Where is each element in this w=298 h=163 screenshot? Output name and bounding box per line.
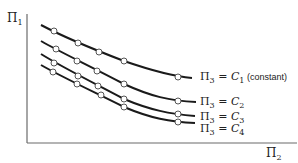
- data-point-marker: [74, 81, 80, 87]
- curve-c3: [41, 54, 195, 116]
- curve-c1: [41, 25, 192, 78]
- data-point-marker: [121, 58, 127, 64]
- data-point-marker: [175, 74, 181, 80]
- curve-c4: [41, 65, 195, 123]
- dimensionless-groups-diagram: Π1 Π2 Π3 = C1 (constant)Π3 = C2Π3 = C3Π3…: [0, 0, 298, 163]
- curve-label-group: Π3 = C1 (constant)Π3 = C2Π3 = C3Π3 = C4: [200, 70, 287, 137]
- curve-label-c1: Π3 = C1 (constant): [200, 70, 287, 85]
- data-point-marker: [175, 119, 181, 125]
- data-point-marker: [51, 28, 57, 34]
- data-point-marker: [175, 111, 181, 117]
- data-point-marker: [175, 98, 181, 104]
- data-point-marker: [53, 46, 59, 52]
- data-point-marker: [98, 92, 104, 98]
- data-point-marker: [121, 96, 127, 102]
- data-point-marker: [74, 58, 80, 64]
- data-point-marker: [96, 49, 102, 55]
- data-point-marker: [75, 40, 81, 46]
- y-axis-label: Π1: [7, 11, 23, 27]
- data-point-marker: [94, 68, 100, 74]
- curve-label-c4: Π3 = C4: [200, 122, 244, 137]
- plot-area: Π1 Π2 Π3 = C1 (constant)Π3 = C2Π3 = C3Π3…: [0, 0, 298, 163]
- data-point-marker: [51, 60, 57, 66]
- curve-label-c2: Π3 = C2: [200, 95, 244, 110]
- data-point-marker: [121, 104, 127, 110]
- data-point-marker: [75, 73, 81, 79]
- data-point-marker: [121, 81, 127, 87]
- data-point-marker: [95, 83, 101, 89]
- curve-group: [41, 25, 196, 125]
- curve-c2: [41, 41, 196, 102]
- x-axis-label: Π2: [266, 146, 282, 162]
- data-point-marker: [50, 69, 56, 75]
